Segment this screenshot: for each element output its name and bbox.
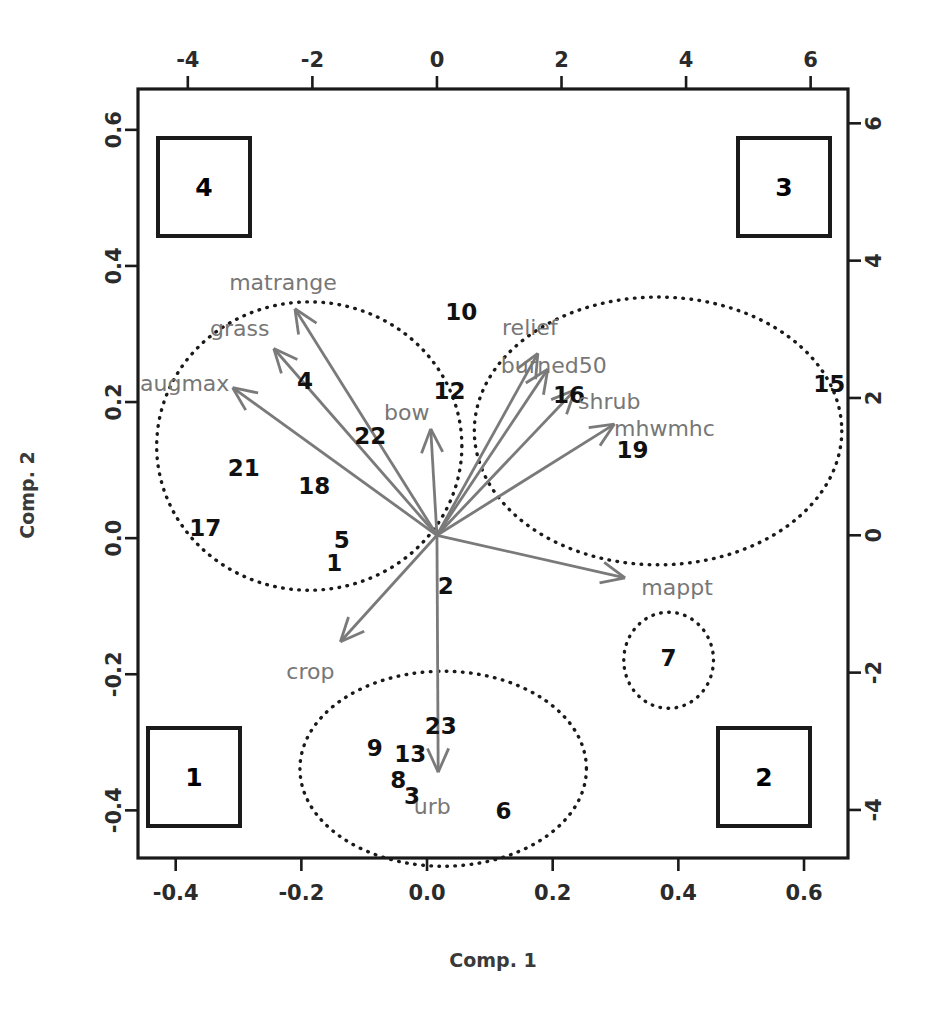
y-axis-title: Comp. 2: [16, 451, 38, 538]
observation-label: 17: [189, 515, 221, 541]
variable-label-relief: relief: [502, 315, 559, 340]
observation-label: 4: [297, 368, 313, 394]
observation-label: 1: [326, 550, 342, 576]
axis-tick-label: 2: [554, 48, 569, 72]
quadrant-box-3: 3: [738, 138, 830, 236]
axis-tick-label: 0.0: [102, 520, 126, 557]
variable-label-shrub: shrub: [578, 389, 640, 414]
quadrant-box-label: 2: [755, 763, 772, 792]
axis-bottom-comp1: -0.4-0.20.00.20.40.6: [153, 858, 823, 905]
axis-tick-label: 0: [862, 528, 886, 543]
observation-label: 19: [617, 437, 649, 463]
variable-label-mhwmhc: mhwmhc: [614, 416, 715, 441]
quadrant-box-label: 3: [775, 173, 792, 202]
axis-tick-label: 0.2: [534, 881, 571, 905]
axis-tick-label: 0.2: [102, 383, 126, 420]
axis-tick-label: -0.4: [102, 787, 126, 833]
axis-tick-label: 0.4: [660, 881, 697, 905]
observation-label: 23: [425, 713, 457, 739]
variable-label-urb: urb: [414, 794, 451, 819]
axis-tick-label: 4: [679, 48, 694, 72]
variable-label-bow: bow: [384, 400, 429, 425]
axis-tick-label: -4: [862, 798, 886, 821]
axis-tick-label: 2: [862, 391, 886, 406]
variable-label-grass: grass: [210, 316, 269, 341]
observation-label: 10: [445, 299, 477, 325]
axis-tick-label: 4: [862, 253, 886, 268]
axis-tick-label: -0.2: [278, 881, 324, 905]
observation-label: 15: [813, 371, 845, 397]
quadrant-box-4: 4: [158, 138, 250, 236]
axis-tick-label: -0.2: [102, 651, 126, 697]
variable-label-crop: crop: [286, 659, 334, 684]
observation-label: 7: [661, 645, 677, 671]
observation-label: 9: [367, 735, 383, 761]
variable-label-matrange: matrange: [229, 270, 337, 295]
quadrant-box-label: 1: [185, 763, 202, 792]
quadrant-box-label: 4: [195, 173, 212, 202]
observation-label: 2: [438, 573, 454, 599]
biplot-canvas: -4-20246 -0.4-0.20.00.20.40.6 0.60.40.20…: [0, 0, 936, 1013]
axis-tick-label: 0.4: [102, 247, 126, 284]
axis-top-loadings: -4-20246: [176, 48, 818, 89]
quadrant-box-2: 2: [718, 728, 810, 826]
axis-tick-label: -2: [301, 48, 324, 72]
axis-tick-label: -0.4: [153, 881, 199, 905]
axis-tick-label: -4: [176, 48, 199, 72]
observation-label: 18: [298, 473, 330, 499]
quadrant-box-1: 1: [148, 728, 240, 826]
variable-label-augmax: augmax: [140, 371, 229, 396]
observation-label: 12: [433, 378, 465, 404]
axis-tick-label: 0.6: [102, 111, 126, 148]
axis-tick-label: 0.6: [785, 881, 822, 905]
variable-label-burned50: burned50: [501, 353, 607, 378]
axis-left-comp2: 0.60.40.20.0-0.2-0.4: [102, 111, 138, 833]
axis-tick-label: 6: [803, 48, 818, 72]
axis-right-loadings: 6420-2-4: [848, 116, 886, 822]
axis-tick-label: 6: [862, 116, 886, 131]
x-axis-title: Comp. 1: [449, 949, 536, 971]
observation-label: 6: [496, 798, 512, 824]
axis-tick-label: 0.0: [408, 881, 445, 905]
observation-label: 22: [354, 423, 386, 449]
variable-label-mappt: mappt: [641, 575, 713, 600]
axis-tick-label: -2: [862, 661, 886, 684]
axis-tick-label: 0: [430, 48, 445, 72]
observation-label: 21: [228, 455, 260, 481]
biplot-figure: -4-20246 -0.4-0.20.00.20.40.6 0.60.40.20…: [0, 0, 936, 1013]
observation-label: 13: [394, 741, 426, 767]
